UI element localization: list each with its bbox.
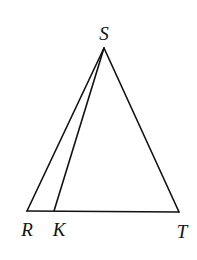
segment-SK — [54, 48, 104, 211]
point-label-S: S — [99, 23, 109, 44]
point-label-K: K — [52, 219, 67, 240]
point-label-T: T — [177, 221, 189, 242]
segment-ST — [104, 48, 179, 212]
point-label-R: R — [20, 219, 33, 240]
segment-RT — [27, 211, 179, 212]
triangle-diagram: S R K T — [0, 0, 197, 260]
segment-SR — [27, 48, 104, 211]
